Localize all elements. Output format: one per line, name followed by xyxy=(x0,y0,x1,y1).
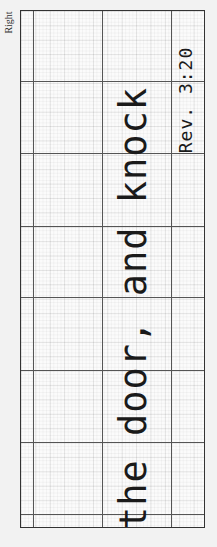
practice-text-label: the door, and knock xyxy=(112,87,155,529)
scripture-reference-label: Rev. 3:20 xyxy=(175,47,196,154)
margin-line-left xyxy=(33,11,34,527)
scripture-reference: Rev. 3:20 xyxy=(174,42,196,158)
baseline-guide xyxy=(102,11,103,527)
side-label: Right xyxy=(0,2,16,42)
practice-text: the door, and knock xyxy=(113,98,153,518)
side-label-text: Right xyxy=(3,11,14,33)
cap-height-guide xyxy=(171,11,172,527)
